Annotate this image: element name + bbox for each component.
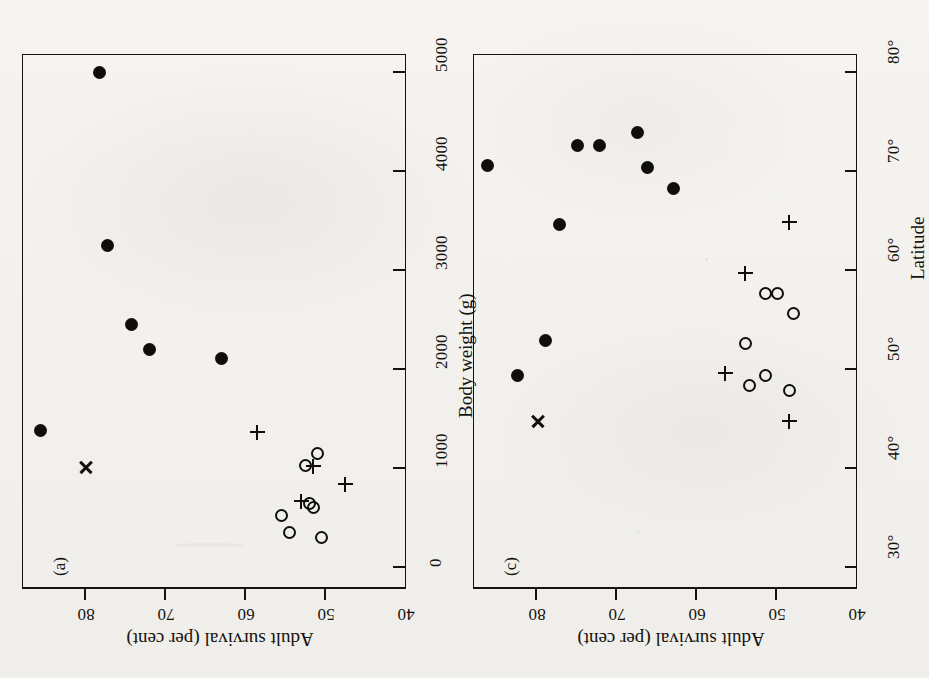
- panel-c-point-filled-circle: [571, 139, 584, 152]
- scan-artifact: [637, 530, 640, 533]
- panel-c-ytick-40: [845, 467, 857, 469]
- panel-a-point-plus: [338, 477, 353, 492]
- panel-c-xtick-label-50: 50: [767, 604, 787, 624]
- panel-c-xtick-label-70: 70: [607, 604, 627, 624]
- panel-a-ytick-label-0: 0: [426, 558, 446, 567]
- panel-c-ytick-label-60: 60°: [884, 238, 904, 262]
- panel-a-point-filled-circle: [93, 66, 106, 79]
- panel-a-point-filled-circle: [101, 239, 114, 252]
- panel-c-ytick-label-50: 50°: [884, 337, 904, 361]
- panel-a-point-cross: [78, 460, 93, 475]
- panel-c-point-filled-circle: [553, 218, 566, 231]
- panel-a-ytick-4000: [393, 170, 405, 172]
- panel-c-point-plus: [738, 266, 753, 281]
- panel-a-point-filled-circle: [125, 318, 138, 331]
- scan-artifact: [175, 543, 245, 547]
- panel-c-xtick-label-40: 40: [847, 604, 867, 624]
- panel-c-point-open-circle: [743, 379, 756, 392]
- panel-a-ytick-label-4000: 4000: [432, 136, 452, 171]
- panel-a-xaxis-title: Adult survival (per cent): [95, 628, 345, 650]
- panel-c-ytick-label-70: 70°: [884, 139, 904, 163]
- panel-a-point-open-circle: [283, 526, 296, 539]
- panel-c-point-filled-circle: [511, 369, 524, 382]
- panel-a-xtick-50: [324, 588, 326, 600]
- panel-c-point-open-circle: [759, 287, 772, 300]
- panel-a-ytick-label-1000: 1000: [432, 433, 452, 468]
- panel-a-point-filled-circle: [143, 343, 156, 356]
- panel-c-yaxis-title: Latitude: [907, 217, 929, 280]
- panel-c-ytick-30: [845, 566, 857, 568]
- panel-c-xtick-80: [535, 588, 537, 600]
- panel-c-point-filled-circle: [481, 159, 494, 172]
- panel-a-point-open-circle: [307, 501, 320, 514]
- panel-a-point-open-circle: [275, 509, 288, 522]
- panel-c-xaxis-line: [473, 587, 857, 589]
- panel-a-point-open-circle: [315, 531, 328, 544]
- panel-a-point-open-circle: [299, 459, 312, 472]
- panel-c-point-filled-circle: [667, 182, 680, 195]
- panel-a-xtick-label-50: 50: [316, 604, 336, 624]
- panel-a-xtick-label-60: 60: [236, 604, 256, 624]
- panel-a-ytick-2000: [393, 368, 405, 370]
- panel-c-xtick-label-60: 60: [687, 604, 707, 624]
- panel-c-point-filled-circle: [539, 334, 552, 347]
- panel-c-point-plus: [782, 414, 797, 429]
- panel-a-ytick-0: [393, 566, 405, 568]
- panel-a-point-filled-circle: [34, 424, 47, 437]
- panel-a-ytick-label-3000: 3000: [432, 235, 452, 270]
- panel-a-xtick-60: [244, 588, 246, 600]
- panel-c-xaxis-title: Adult survival (per cent): [546, 628, 796, 650]
- panel-c-point-open-circle: [783, 384, 796, 397]
- panel-c-point-open-circle: [759, 369, 772, 382]
- panel-a-ytick-label-5000: 5000: [432, 37, 452, 72]
- panel-a-xtick-label-70: 70: [156, 604, 176, 624]
- panel-c-point-plus: [782, 215, 797, 230]
- panel-c-label: (c): [501, 557, 521, 576]
- panel-a-xaxis-line: [22, 587, 406, 589]
- panel-a-ytick-5000: [393, 71, 405, 73]
- panel-c-ytick-70: [845, 170, 857, 172]
- panel-a-point-open-circle: [311, 447, 324, 460]
- panel-c-point-filled-circle: [631, 126, 644, 139]
- panel-a-point-plus: [250, 425, 265, 440]
- panel-a-point-filled-circle: [215, 352, 228, 365]
- panel-a-xtick-70: [164, 588, 166, 600]
- panel-c-ytick-80: [845, 71, 857, 73]
- panel-c-point-open-circle: [787, 307, 800, 320]
- panel-c-plot-frame: [473, 54, 857, 588]
- panel-a-ytick-1000: [393, 467, 405, 469]
- panel-c-ytick-label-30: 30°: [884, 535, 904, 559]
- panel-c-point-cross: [530, 414, 545, 429]
- panel-c-ytick-label-40: 40°: [884, 436, 904, 460]
- panel-c-xtick-label-80: 80: [527, 604, 547, 624]
- panel-a-xtick-80: [84, 588, 86, 600]
- panel-c-point-filled-circle: [593, 139, 606, 152]
- panel-c-point-open-circle: [739, 337, 752, 350]
- panel-a-label: (a): [50, 557, 70, 576]
- panel-a-ytick-label-2000: 2000: [432, 334, 452, 369]
- panel-c-xtick-70: [615, 588, 617, 600]
- panel-c-xtick-60: [695, 588, 697, 600]
- panel-c-ytick-60: [845, 269, 857, 271]
- panel-a-xtick-label-80: 80: [76, 604, 96, 624]
- panel-c-point-open-circle: [771, 287, 784, 300]
- panel-c-point-plus: [718, 366, 733, 381]
- scan-artifact: [705, 258, 708, 261]
- panel-c-point-filled-circle: [641, 161, 654, 174]
- panel-a-ytick-3000: [393, 269, 405, 271]
- panel-a-xtick-label-40: 40: [396, 604, 416, 624]
- panel-a-plot-frame: [22, 54, 406, 588]
- panel-c-xtick-50: [775, 588, 777, 600]
- panel-c-ytick-label-80: 80°: [884, 40, 904, 64]
- panel-c-ytick-50: [845, 368, 857, 370]
